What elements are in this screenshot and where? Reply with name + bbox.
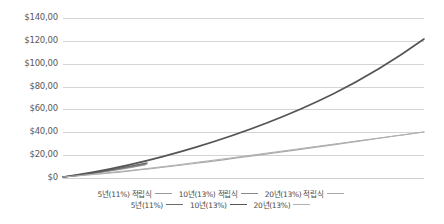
line-chart: $140,00$120,00$100,00$80,00$60,00$40,00$… xyxy=(0,0,444,224)
gridline xyxy=(63,178,424,179)
legend-label: 5년(11%) 적립식 xyxy=(97,189,151,200)
legend-row-1: 5년(11%) 적립식10년(13%) 적립식20년(13%) 적립식 xyxy=(0,188,444,200)
legend-item[interactable]: 5년(11%) xyxy=(131,200,186,211)
legend-item[interactable]: 5년(11%) 적립식 xyxy=(97,188,174,199)
y-axis-tick-label: $80,00 xyxy=(6,82,58,91)
y-axis-tick-label: $0 xyxy=(6,173,58,182)
legend-label: 10년(13%) xyxy=(190,200,227,211)
legend-line-swatch xyxy=(230,204,247,205)
chart-legend: 5년(11%) 적립식10년(13%) 적립식20년(13%) 적립식 5년(1… xyxy=(0,188,444,211)
legend-label: 10년(13%) 적립식 xyxy=(179,189,238,200)
legend-label: 20년(13%) 적립식 xyxy=(265,189,324,200)
y-axis-tick-label: $60,00 xyxy=(6,104,58,113)
y-axis-tick-label: $40,00 xyxy=(6,127,58,136)
legend-item[interactable]: 10년(13%) 적립식 xyxy=(179,188,261,199)
y-axis-tick-label: $20,00 xyxy=(6,150,58,159)
legend-row-2: 5년(11%)10년(13%)20년(13%) xyxy=(0,200,444,212)
y-axis-tick-label: $100,00 xyxy=(6,59,58,68)
legend-line-swatch xyxy=(293,204,310,205)
legend-line-swatch xyxy=(241,193,258,194)
plot-area xyxy=(63,18,424,178)
legend-label: 5년(11%) xyxy=(131,200,163,211)
legend-item[interactable]: 20년(13%) xyxy=(254,200,314,211)
y-axis-tick-label: $120,00 xyxy=(6,36,58,45)
legend-line-swatch xyxy=(155,193,172,194)
y-axis-tick-label: $140,00 xyxy=(6,13,58,22)
legend-item[interactable]: 10년(13%) xyxy=(190,200,250,211)
legend-line-swatch xyxy=(166,204,183,205)
legend-line-swatch xyxy=(327,193,344,194)
legend-label: 20년(13%) xyxy=(254,200,291,211)
series-lines xyxy=(63,18,424,178)
legend-item[interactable]: 20년(13%) 적립식 xyxy=(265,188,347,199)
